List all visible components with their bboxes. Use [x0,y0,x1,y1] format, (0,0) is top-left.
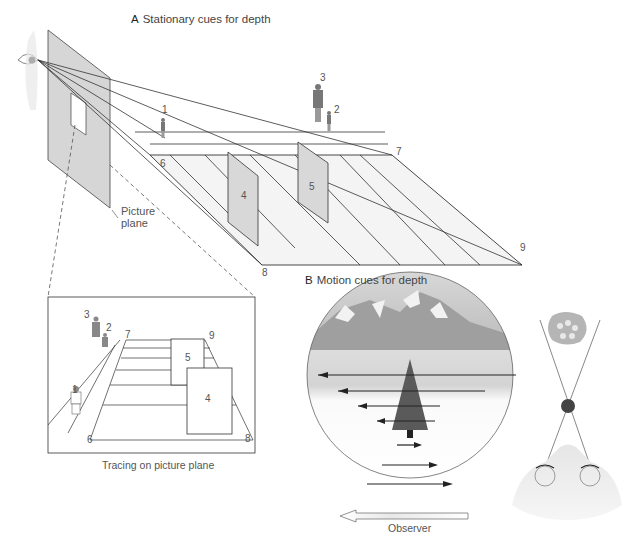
binocular-diagram [512,312,622,520]
person-3 [313,84,323,122]
panel-a-title: AStationary cues for depth [131,13,271,25]
marker-6: 6 [160,158,166,169]
person-2 [327,111,331,131]
marker-7: 7 [396,146,402,157]
marker-3: 3 [320,72,326,83]
picture-plane-label: Pictureplane [121,205,155,229]
marker-4: 4 [241,190,247,201]
person-1 [161,118,165,138]
marker-8: 8 [262,267,268,278]
marker-1: 1 [162,104,168,115]
motion-scene [300,270,520,487]
panel-b-title: BMotion cues for depth [305,274,427,286]
panel-b-letter: B [305,274,313,286]
eye-icon [18,30,38,110]
tracing-marker-8: 8 [245,433,251,444]
panel-b-title-text: Motion cues for depth [317,274,428,286]
marker-5: 5 [309,181,315,192]
tracing-marker-3: 3 [84,309,90,320]
marker-9: 9 [520,242,526,253]
tracing-marker-7: 7 [125,329,131,340]
tracing-marker-6: 6 [87,434,93,445]
tracing-marker-5: 5 [185,352,191,363]
picture-plane-label-line2: plane [121,217,148,229]
picture-plane-label-line1: Picture [121,205,155,217]
tracing-marker-9: 9 [209,330,215,341]
panel-a-title-text: Stationary cues for depth [143,13,271,25]
ground-plane [150,155,522,265]
tracing-caption: Tracing on picture plane [102,459,214,471]
observer-arrow-icon [340,510,468,522]
tracing-marker-2: 2 [106,322,112,333]
tracing-marker-4: 4 [205,393,211,404]
marker-2: 2 [334,104,340,115]
tracing-marker-1: 1 [72,384,78,395]
observer-label: Observer [388,522,431,534]
panel-a-letter: A [131,13,139,25]
